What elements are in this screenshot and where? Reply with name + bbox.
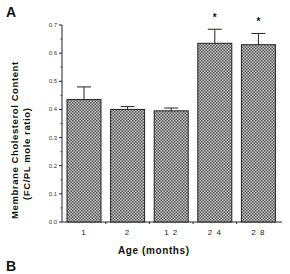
- y-tick-label: 0.1: [49, 191, 58, 197]
- bars: **: [67, 12, 275, 222]
- y-axis-title: Membrane Cholesterol Content: [9, 61, 20, 219]
- bar-28: *: [241, 16, 275, 222]
- y-tick-label: 0.7: [49, 22, 58, 28]
- y-tick-label: 0.0: [49, 219, 58, 225]
- x-tick-label: 1: [81, 228, 86, 237]
- x-tick-label: 1 2: [164, 228, 178, 237]
- significance-star: *: [213, 12, 217, 23]
- y-tick-label: 0.4: [49, 106, 58, 112]
- x-tick-label: 2 4: [208, 228, 222, 237]
- bar-1: [67, 87, 101, 222]
- significance-star: *: [256, 16, 260, 27]
- x-axis-title: Age (months): [118, 245, 190, 256]
- y-axis: 0.00.10.20.30.40.50.60.7: [49, 22, 62, 225]
- y-tick-label: 0.3: [49, 135, 58, 141]
- y-axis-subtitle: (FC/PL mole ratio): [21, 108, 32, 200]
- bar-2: [111, 107, 145, 222]
- bar-24: *: [198, 12, 232, 222]
- y-tick-label: 0.6: [49, 50, 58, 56]
- y-tick-label: 0.2: [49, 163, 58, 169]
- y-tick-label: 0.5: [49, 78, 58, 84]
- x-tick-label: 2: [125, 228, 130, 237]
- x-axis: 121 22 42 8: [62, 222, 282, 237]
- x-tick-label: 2 8: [251, 228, 265, 237]
- panel-label-b: B: [6, 258, 16, 274]
- bar-12: [154, 108, 188, 222]
